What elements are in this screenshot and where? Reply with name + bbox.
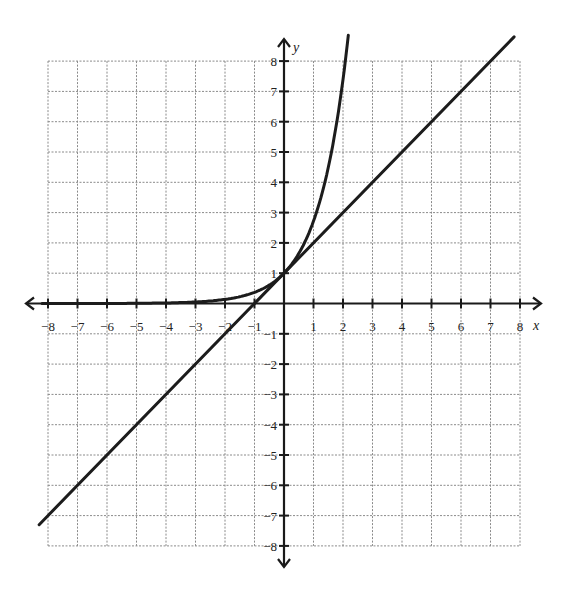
y-tick-label: −6 <box>263 478 277 493</box>
x-axis-label: x <box>532 318 540 333</box>
x-tick-label: −7 <box>71 319 85 334</box>
x-tick-label: −4 <box>159 319 173 334</box>
x-tick-label: 4 <box>399 319 406 334</box>
x-tick-label: 1 <box>310 319 317 334</box>
y-tick-label: 3 <box>271 206 278 221</box>
y-tick-label: −1 <box>263 327 277 342</box>
y-tick-label: 8 <box>271 54 278 69</box>
x-tick-label: −3 <box>189 319 203 334</box>
y-axis-label: y <box>291 40 300 55</box>
x-tick-label: −5 <box>130 319 144 334</box>
y-tick-label: −3 <box>263 387 277 402</box>
y-tick-label: −5 <box>263 448 277 463</box>
y-tick-label: 7 <box>271 84 278 99</box>
y-tick-label: −2 <box>263 357 277 372</box>
x-tick-label: −6 <box>100 319 114 334</box>
y-tick-label: −8 <box>263 539 277 554</box>
y-tick-label: −4 <box>263 418 277 433</box>
y-tick-label: 2 <box>271 236 278 251</box>
y-tick-label: 4 <box>271 175 278 190</box>
x-tick-label: −1 <box>248 319 262 334</box>
x-tick-label: 6 <box>458 319 465 334</box>
coordinate-plane: −8−7−6−5−4−3−2−112345678−8−7−6−5−4−3−2−1… <box>0 0 572 598</box>
x-tick-label: −8 <box>41 319 55 334</box>
x-tick-label: 8 <box>517 319 524 334</box>
x-tick-label: 5 <box>428 319 435 334</box>
y-tick-label: 5 <box>271 145 278 160</box>
x-tick-label: 3 <box>369 319 376 334</box>
x-tick-label: 7 <box>487 319 494 334</box>
x-tick-label: 2 <box>340 319 347 334</box>
y-tick-label: −7 <box>263 509 277 524</box>
x-tick-label: −2 <box>218 319 232 334</box>
y-tick-label: 6 <box>271 115 278 130</box>
